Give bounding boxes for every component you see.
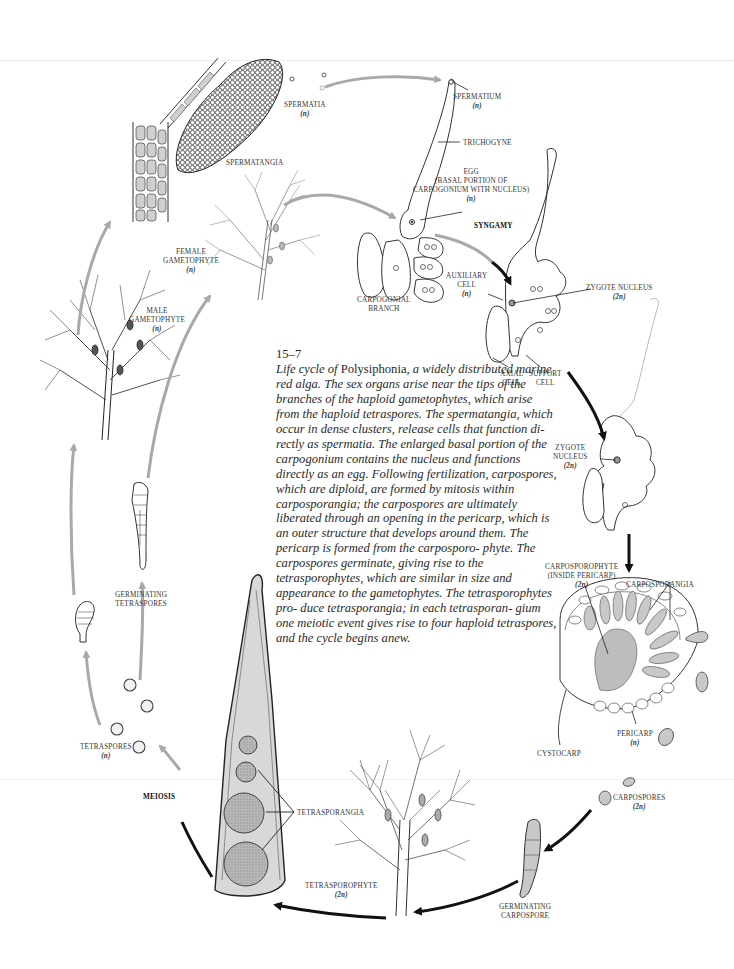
label-pericarp: PERICARP(n) [617,730,653,748]
label-spermatangia: SPERMATANGIA [226,159,283,168]
label-germinating-carpospore: GERMINATINGCARPOSPORE [499,903,551,921]
spermatangia-drawing [133,58,326,222]
label-zygote-nucleus-top: ZYGOTE NUCLEUS(2n) [586,284,652,302]
label-egg: EGG(BASAL PORTION OFCARPOGONIUM WITH NUC… [413,168,529,204]
label-female-gametophyte: FEMALEGAMETOPHYTE(n) [163,248,219,275]
label-tetraspores: TETRASPORES(n) [80,743,132,761]
label-zygote-nucleus-mid: ZYGOTENUCLEUS(2n) [553,444,588,471]
figure-number: 15–7 [276,347,558,362]
label-cystocarp: CYSTOCARP [537,750,581,759]
label-spermatia: SPERMATIA(n) [284,101,326,119]
tetraspores-drawing [111,679,153,753]
label-male-gametophyte: MALEGAMETOPHYTE(n) [129,307,185,334]
label-tetrasporophyte: TETRASPOROPHYTE(2n) [305,882,378,900]
label-tetrasporangia: TETRASPORANGIA [297,809,364,818]
label-spermatium: SPERMATIUM(n) [453,93,501,111]
label-germinating-tetraspores: GERMINATINGTETRASPORES [115,591,167,609]
caption-text: Life cycle of Polysiphonia, a widely dis… [276,362,557,645]
germinating-tetraspore-drawing [76,482,149,642]
female-gametophyte-drawing [205,170,320,300]
label-syngamy: SYNGAMY [474,222,513,231]
label-meiosis: MEIOSIS [143,793,175,802]
figure-caption: 15–7 Life cycle of Polysiphonia, a widel… [276,347,558,646]
cystocarp-drawing [558,578,708,805]
germinating-carpospore-drawing [520,819,541,897]
label-carpospores: CARPOSPORES(2n) [613,794,666,812]
label-carpogonial-branch: CARPOGONIALBRANCH [357,296,411,314]
label-auxiliary-cell: AUXILIARYCELL(n) [446,272,487,299]
polysiphonia-life-cycle-figure: SPERMATIA(n) SPERMATANGIA SPERMATIUM(n) … [0,0,734,969]
label-trichogyne: TRICHOGYNE [463,139,512,148]
label-carposporangia: CARPOSPORANGIA [626,581,694,590]
